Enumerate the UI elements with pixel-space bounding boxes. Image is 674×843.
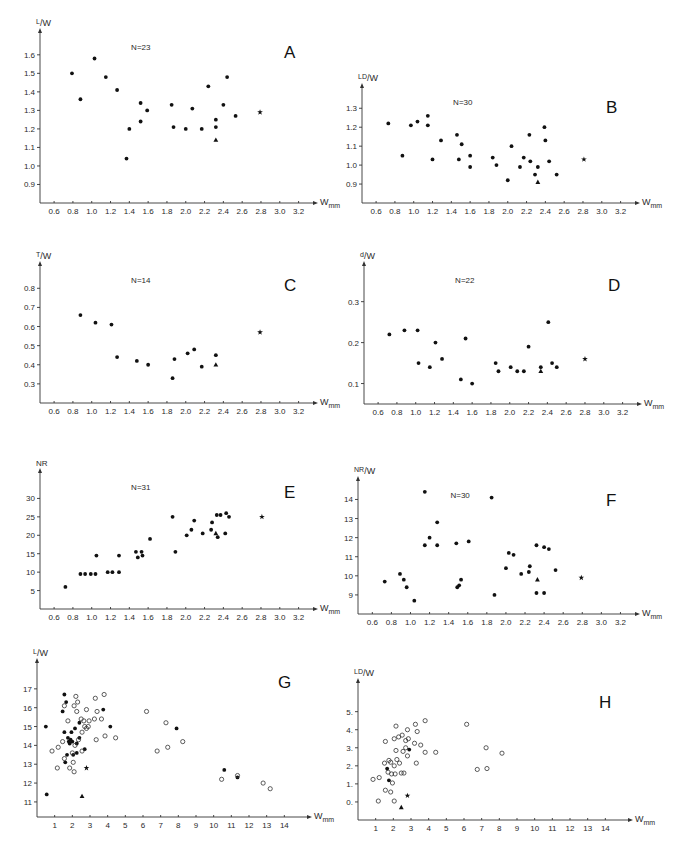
x-tick-label: 2.8 xyxy=(255,407,267,416)
x-tick-label: 2.2 xyxy=(199,207,211,216)
data-point-open xyxy=(102,692,106,696)
data-point-open xyxy=(92,717,96,721)
x-tick-label: 1 xyxy=(373,824,378,833)
x-axis-arrow-icon xyxy=(313,607,318,611)
x-tick-label: 0.6 xyxy=(49,613,61,622)
x-tick-label: 7 xyxy=(479,824,484,833)
y-axis-arrow-icon xyxy=(362,261,366,266)
y-tick-label: 16 xyxy=(23,704,32,713)
data-point-filled xyxy=(554,568,558,572)
data-point-filled xyxy=(139,101,143,105)
star-marker-icon xyxy=(257,329,263,334)
x-tick-label: 5 xyxy=(123,821,128,830)
x-tick-label: 1.4 xyxy=(443,618,455,627)
x-tick-label: 2.4 xyxy=(540,207,552,216)
y-tick-label: 1.3 xyxy=(24,106,36,115)
data-point-filled xyxy=(75,751,79,755)
x-tick-label: 1 xyxy=(52,821,57,830)
x-tick-label: 2.4 xyxy=(542,408,554,417)
data-point-filled xyxy=(405,585,409,589)
data-point-filled xyxy=(491,156,495,160)
y-tick-label: 0.6 xyxy=(24,323,36,332)
x-tick-label: 2.0 xyxy=(502,207,514,216)
star-marker-icon xyxy=(259,514,265,519)
data-point-filled xyxy=(134,550,138,554)
data-point-filled xyxy=(192,348,196,352)
data-point-open xyxy=(434,750,438,754)
x-tick-label: 1.6 xyxy=(462,618,474,627)
x-tick-label: 3 xyxy=(409,824,414,833)
data-point-filled xyxy=(45,792,49,796)
y-axis-label: L/W xyxy=(33,648,48,658)
data-point-filled xyxy=(398,572,402,576)
sample-size-label: N=23 xyxy=(131,43,151,52)
data-point-filled xyxy=(522,156,526,160)
data-point-filled xyxy=(216,535,220,539)
x-axis-label: Wmm xyxy=(320,397,340,409)
x-axis-label: Wmm xyxy=(635,814,655,826)
data-point-filled xyxy=(543,125,547,129)
triangle-marker-icon xyxy=(399,805,404,809)
data-point-filled xyxy=(209,528,213,532)
triangle-marker-icon xyxy=(535,180,540,184)
x-tick-label: 1.0 xyxy=(86,207,98,216)
data-point-filled xyxy=(222,768,226,772)
x-tick-label: 3.0 xyxy=(596,207,608,216)
data-point-open xyxy=(500,751,504,755)
x-tick-label: 11 xyxy=(227,821,236,830)
y-tick-label: 3. xyxy=(346,744,353,753)
data-point-open xyxy=(465,722,469,726)
data-point-filled xyxy=(117,554,121,558)
x-tick-label: 1.6 xyxy=(465,207,477,216)
data-point-open xyxy=(397,761,401,765)
data-point-open xyxy=(80,730,84,734)
x-tick-label: 2.2 xyxy=(523,408,535,417)
y-axis-arrow-icon xyxy=(356,678,360,683)
data-point-filled xyxy=(412,599,416,603)
x-tick-label: 1.6 xyxy=(143,207,155,216)
y-tick-label: 0.2 xyxy=(348,339,360,348)
data-point-filled xyxy=(185,533,189,537)
data-point-open xyxy=(99,717,103,721)
data-point-filled xyxy=(110,323,114,327)
x-tick-label: 7 xyxy=(158,821,163,830)
y-tick-label: 0.7 xyxy=(24,303,36,312)
data-point-filled xyxy=(200,365,204,369)
data-point-open xyxy=(414,761,418,765)
data-point-filled xyxy=(108,725,112,729)
y-axis-arrow-icon xyxy=(35,658,39,663)
data-point-open xyxy=(87,719,91,723)
data-point-filled xyxy=(70,740,74,744)
x-tick-label: 2 xyxy=(70,821,75,830)
data-point-open xyxy=(405,754,409,758)
triangle-marker-icon xyxy=(213,137,218,141)
x-tick-label: 2.6 xyxy=(237,407,249,416)
x-axis-arrow-icon xyxy=(313,401,318,405)
data-point-filled xyxy=(94,321,98,325)
data-point-open xyxy=(485,766,489,770)
data-point-filled xyxy=(172,125,176,129)
x-tick-label: 2.8 xyxy=(577,618,589,627)
panel-letter: B xyxy=(606,98,617,117)
data-point-filled xyxy=(527,133,531,137)
data-point-open xyxy=(94,738,98,742)
data-point-open xyxy=(74,694,78,698)
triangle-marker-icon xyxy=(213,362,218,366)
x-axis-label: Wmm xyxy=(642,197,662,209)
x-tick-label: 2.0 xyxy=(500,618,512,627)
x-tick-label: 3.2 xyxy=(615,207,627,216)
x-tick-label: 2.8 xyxy=(255,613,267,622)
x-tick-label: 1.4 xyxy=(446,207,458,216)
data-point-open xyxy=(415,729,419,733)
data-point-filled xyxy=(468,154,472,158)
x-tick-label: 2 xyxy=(391,824,396,833)
y-tick-label: 0.4 xyxy=(24,361,36,370)
data-point-filled xyxy=(454,541,458,545)
x-tick-label: 8 xyxy=(176,821,181,830)
data-point-open xyxy=(390,781,394,785)
x-tick-label: 2.6 xyxy=(561,408,573,417)
data-point-open xyxy=(76,700,80,704)
data-point-open xyxy=(66,719,70,723)
data-point-filled xyxy=(387,333,391,337)
data-point-open xyxy=(405,728,409,732)
